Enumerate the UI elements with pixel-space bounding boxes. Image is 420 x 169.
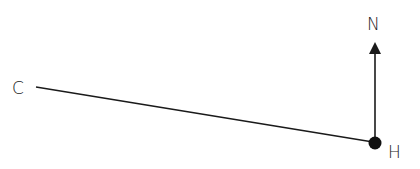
point-h-label: H (388, 142, 401, 162)
north-arrow-icon (369, 42, 381, 54)
point-h-dot (369, 137, 382, 150)
point-c-label: C (12, 78, 24, 98)
north-label: N (367, 14, 380, 34)
line-c-to-h (36, 87, 373, 142)
diagram-canvas: C N H (0, 0, 420, 169)
